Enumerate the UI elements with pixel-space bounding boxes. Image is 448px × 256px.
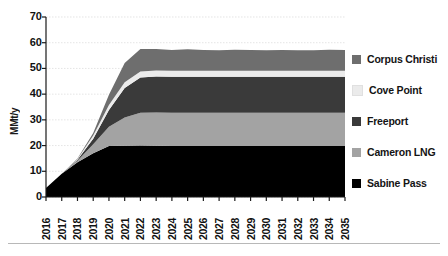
- x-axis-tick-label: 2021: [119, 200, 131, 240]
- legend-item-corpus-christi[interactable]: Corpus Christi: [352, 52, 448, 66]
- x-axis-tick-label: 2024: [166, 200, 178, 240]
- x-axis-tick-label: 2029: [245, 200, 257, 240]
- x-axis-tick-label: 2035: [339, 200, 351, 240]
- legend-swatch-icon: [352, 55, 361, 64]
- x-axis-tick-label: 2027: [213, 200, 225, 240]
- x-axis-tick-label: 2032: [292, 200, 304, 240]
- legend-item-label: Corpus Christi: [367, 53, 437, 65]
- legend-item-sabine-pass[interactable]: Sabine Pass: [352, 176, 448, 190]
- x-axis-tick-label: 2026: [197, 200, 209, 240]
- x-axis-tick-label: 2031: [276, 200, 288, 240]
- legend-swatch-icon: [352, 148, 361, 157]
- legend-swatch-icon: [352, 179, 361, 188]
- x-axis-tick-label: 2017: [56, 200, 68, 240]
- legend-item-label: Sabine Pass: [367, 177, 427, 189]
- x-axis-tick-label: 2018: [71, 200, 83, 240]
- x-axis-tick-label: 2016: [40, 200, 52, 240]
- x-axis-tick-label: 2033: [308, 200, 320, 240]
- legend-item-label: Freeport: [367, 115, 408, 127]
- legend-item-label: Cameron LNG: [367, 146, 435, 158]
- chart-legend: Corpus ChristiCove PointFreeportCameron …: [352, 52, 448, 207]
- legend-item-cove-point[interactable]: Cove Point: [352, 83, 448, 97]
- x-axis-tick-label: 2020: [103, 200, 115, 240]
- legend-item-freeport[interactable]: Freeport: [352, 114, 448, 128]
- x-axis-tick-label: 2019: [87, 200, 99, 240]
- x-axis-tick-label: 2028: [229, 200, 241, 240]
- legend-swatch-icon: [352, 85, 363, 96]
- x-axis-tick-label: 2025: [182, 200, 194, 240]
- bottom-divider: [8, 243, 440, 244]
- legend-swatch-icon: [352, 117, 361, 126]
- legend-item-label: Cove Point: [369, 84, 422, 96]
- legend-item-cameron-lng[interactable]: Cameron LNG: [352, 145, 448, 159]
- x-axis-tick-label: 2034: [323, 200, 335, 240]
- x-axis-tick-label: 2023: [150, 200, 162, 240]
- chart-container: MMt/y 010203040506070 201620172018201920…: [0, 0, 448, 256]
- x-axis-tick-label: 2030: [260, 200, 272, 240]
- x-axis-tick-label: 2022: [134, 200, 146, 240]
